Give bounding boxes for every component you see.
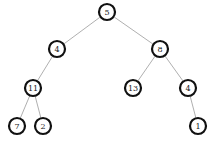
node-label: 4 bbox=[185, 84, 190, 93]
tree-node: 2 bbox=[35, 118, 51, 134]
node-label: 5 bbox=[104, 8, 109, 17]
node-label: 1 bbox=[195, 122, 200, 131]
tree-node: 4 bbox=[49, 41, 65, 57]
edges bbox=[17, 12, 198, 126]
edge-n5-n4a bbox=[57, 12, 107, 49]
tree-node: 4 bbox=[180, 80, 196, 96]
tree-node: 11 bbox=[25, 80, 41, 96]
tree-diagram: 54811134721 bbox=[0, 0, 213, 150]
nodes: 54811134721 bbox=[9, 4, 206, 134]
edge-n5-n8 bbox=[107, 12, 160, 49]
tree-node: 5 bbox=[99, 4, 115, 20]
node-label: 13 bbox=[128, 84, 138, 93]
node-label: 11 bbox=[28, 84, 38, 93]
node-label: 8 bbox=[157, 45, 162, 54]
node-label: 2 bbox=[40, 122, 45, 131]
tree-node: 1 bbox=[190, 118, 206, 134]
node-label: 7 bbox=[14, 122, 19, 131]
tree-node: 13 bbox=[125, 80, 141, 96]
node-label: 4 bbox=[54, 45, 59, 54]
tree-node: 8 bbox=[152, 41, 168, 57]
tree-node: 7 bbox=[9, 118, 25, 134]
